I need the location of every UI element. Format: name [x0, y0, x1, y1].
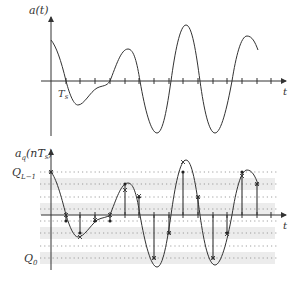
top-t-axis-label: t [283, 86, 288, 97]
ts-tick-label: Ts [58, 88, 69, 101]
quantization-bands [40, 178, 275, 264]
level-q-l-minus-1-label: QL−1 [12, 166, 36, 181]
top-y-axis-label: a(t) [29, 4, 49, 17]
bottom-plot: aq(nTs) t QL−1 Q0 [12, 147, 288, 270]
bottom-t-axis-label: t [283, 220, 288, 231]
level-q0-label: Q0 [24, 252, 38, 267]
sampling-quantization-diagram: a(t) t Ts [0, 0, 298, 281]
bottom-y-axis-label: aq(nTs) [15, 147, 53, 162]
top-plot: a(t) t Ts [29, 4, 288, 136]
